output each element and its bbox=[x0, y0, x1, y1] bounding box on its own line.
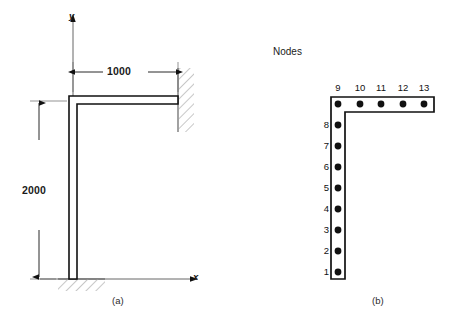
node-label-13: 13 bbox=[415, 83, 433, 93]
caption-panel-a: (a) bbox=[112, 296, 124, 306]
mesh-node-dot bbox=[335, 248, 342, 255]
dimension-label-2000: 2000 bbox=[22, 185, 46, 196]
figure-canvas bbox=[0, 0, 462, 320]
node-label-7: 7 bbox=[315, 141, 329, 151]
node-label-10: 10 bbox=[351, 83, 369, 93]
node-label-6: 6 bbox=[315, 162, 329, 172]
l-frame-member bbox=[69, 96, 178, 279]
mesh-node-dot bbox=[335, 122, 342, 129]
node-label-8: 8 bbox=[315, 120, 329, 130]
node-label-1: 1 bbox=[315, 267, 329, 277]
mesh-node-dot bbox=[335, 101, 342, 108]
panel-b-title: Nodes bbox=[273, 47, 302, 57]
x-axis-label: x bbox=[193, 272, 198, 282]
mesh-node-dot bbox=[335, 185, 342, 192]
mesh-node-dot bbox=[421, 101, 428, 108]
dimension-label-1000: 1000 bbox=[107, 66, 131, 77]
mesh-node-dot bbox=[335, 143, 342, 150]
node-label-4: 4 bbox=[315, 204, 329, 214]
node-label-2: 2 bbox=[315, 246, 329, 256]
node-label-3: 3 bbox=[315, 225, 329, 235]
node-dot-group bbox=[335, 101, 428, 276]
ground-support bbox=[58, 279, 105, 291]
figure-root: y x 1000 2000 (a) Nodes (b) 123456789101… bbox=[0, 0, 462, 320]
mesh-node-dot bbox=[335, 227, 342, 234]
node-label-12: 12 bbox=[394, 83, 412, 93]
mesh-node-dot bbox=[335, 269, 342, 276]
wall-support bbox=[178, 68, 194, 132]
mesh-node-dot bbox=[335, 206, 342, 213]
mesh-node-dot bbox=[357, 101, 364, 108]
node-label-9: 9 bbox=[329, 83, 347, 93]
caption-panel-b: (b) bbox=[372, 296, 384, 306]
node-label-11: 11 bbox=[372, 83, 390, 93]
node-label-5: 5 bbox=[315, 183, 329, 193]
mesh-node-dot bbox=[335, 164, 342, 171]
mesh-node-dot bbox=[400, 101, 407, 108]
mesh-node-dot bbox=[378, 101, 385, 108]
mesh-frame-outline bbox=[331, 97, 434, 279]
y-axis-label: y bbox=[69, 11, 74, 21]
